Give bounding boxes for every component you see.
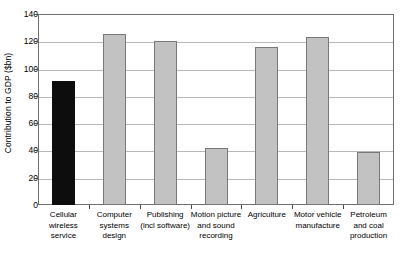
x-axis-category-line: and coal (339, 221, 398, 232)
bar (52, 81, 75, 205)
x-axis-category-line: and sound (187, 221, 246, 232)
x-tick-mark (89, 205, 90, 209)
y-tick-label: 0 (8, 201, 38, 210)
x-axis-category-line: recording (187, 231, 246, 242)
bar (205, 148, 228, 205)
bar (357, 152, 380, 205)
x-axis-category-line: Petroleum (339, 210, 398, 221)
x-tick-mark (292, 205, 293, 209)
x-tick-mark (241, 205, 242, 209)
x-axis-category-line: design (85, 231, 144, 242)
bars-layer (38, 14, 394, 205)
bar-chart: Contribution to GDP ($bn) 02040608010012… (0, 0, 402, 258)
x-axis-labels: CellularwirelessserviceComputersystemsde… (38, 210, 394, 256)
x-tick-mark (343, 205, 344, 209)
bar (103, 34, 126, 205)
bar (154, 41, 177, 205)
x-tick-mark (191, 205, 192, 209)
bar (255, 47, 278, 205)
bar (306, 37, 329, 205)
y-axis-ticks: 020406080100120140 (0, 14, 38, 205)
x-axis-category-line: production (339, 231, 398, 242)
x-axis-category-label: Petroleumand coalproduction (339, 210, 398, 242)
x-tick-mark (140, 205, 141, 209)
